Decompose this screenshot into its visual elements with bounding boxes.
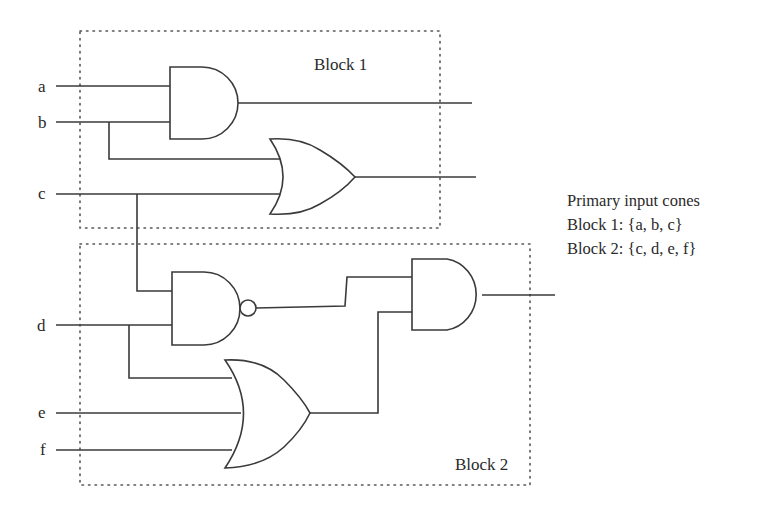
or-gate-def [225, 360, 310, 468]
input-label-c: c [38, 184, 46, 203]
block-2-label: Block 2 [455, 455, 508, 474]
and-gate-ab [170, 67, 238, 139]
input-label-d: d [37, 316, 46, 335]
input-label-e: e [38, 403, 46, 422]
annotation-title: Primary input cones [567, 189, 700, 213]
block-1-label: Block 1 [314, 55, 367, 74]
input-label-a: a [38, 77, 46, 96]
input-label-b: b [38, 113, 47, 132]
nand-inversion-bubble [240, 300, 256, 316]
or-gate-bc [270, 139, 355, 215]
block-1-boundary [80, 31, 440, 228]
and-gate-output [412, 259, 476, 330]
block-1-wires [56, 86, 476, 194]
nand-gate-cd [172, 272, 240, 345]
annotation-block-2-cone: Block 2: {c, d, e, f} [567, 237, 696, 261]
annotation-block-1-cone: Block 1: {a, b, c} [567, 213, 683, 237]
input-label-f: f [40, 440, 46, 459]
